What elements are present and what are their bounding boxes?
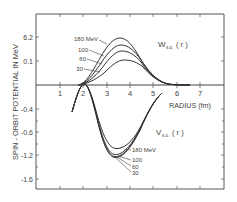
y-tick-labels: 6.2 0.1 -0.4 -0.6 -1.2 -1.6 [21, 34, 33, 183]
y-tick-label: -0.4 [21, 106, 33, 113]
y-tick-label: -1.2 [21, 152, 33, 159]
v-energy-labels: 180 MeV 100 60 30 [132, 147, 156, 176]
v-curve-60 [72, 84, 162, 157]
w-label-180: 180 MeV [74, 36, 98, 42]
v-curve-100 [72, 84, 162, 155]
y-tick-label: -0.6 [21, 129, 33, 136]
w-argument: ( r ) [176, 40, 188, 49]
v-label-180: 180 MeV [132, 147, 156, 153]
x-tick-label: 1 [58, 89, 62, 98]
x-tick-label: 6 [175, 89, 179, 98]
x-tick-label: 2 [81, 89, 85, 98]
v-subscript: s.o. [162, 133, 169, 138]
w-subscript: s.o. [166, 45, 173, 50]
v-leader-lines [116, 149, 131, 172]
v-so-label: V s.o. ( r ) [156, 128, 184, 138]
y-tick-label: -1.6 [21, 176, 33, 183]
v-label-30: 30 [132, 170, 139, 176]
v-argument: ( r ) [172, 128, 184, 137]
v-label-60: 60 [132, 164, 139, 170]
w-label-30: 30 [76, 66, 83, 72]
w-symbol: W [158, 40, 166, 49]
y-tick-label: 6.2 [23, 34, 33, 41]
x-tick-label: 3 [105, 89, 109, 98]
y-tick-label: 0.1 [23, 58, 33, 65]
x-tick-label: 7 [198, 89, 202, 98]
v-label-100: 100 [132, 157, 143, 163]
spin-orbit-potential-chart: 1 2 3 4 5 6 7 RADIUS (fm) 6.2 0.1 -0.4 -… [0, 0, 237, 202]
w-energy-labels: 180 MeV 100 60 30 [74, 36, 98, 72]
v-curve-180 [72, 84, 162, 149]
y-axis-label: SPIN - ORBIT POTENTIAL IN MeV [11, 44, 20, 160]
x-axis-label: RADIUS (fm) [169, 101, 211, 110]
x-tick-label: 4 [128, 89, 132, 98]
w-leader-lines [84, 40, 107, 72]
w-so-label: W s.o. ( r ) [158, 40, 188, 50]
x-tick-label: 5 [151, 89, 155, 98]
w-label-60: 60 [79, 56, 86, 62]
w-label-100: 100 [78, 47, 89, 53]
